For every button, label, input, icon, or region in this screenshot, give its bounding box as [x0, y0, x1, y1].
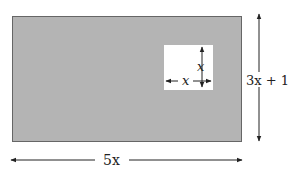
inner-horizontal-label: x: [182, 73, 190, 88]
diagram: x x 3x + 1 5x: [0, 0, 288, 175]
width-label: 5x: [103, 152, 120, 168]
height-label: 3x + 1: [246, 73, 288, 88]
inner-vertical-label: x: [197, 59, 205, 74]
